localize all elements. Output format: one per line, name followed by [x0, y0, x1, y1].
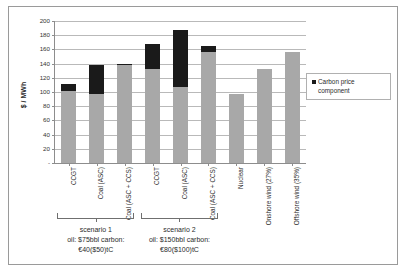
bar-3[interactable] — [117, 64, 132, 163]
x-axis-label-2: Coal (ASC) — [98, 167, 104, 199]
scenario-detail-line-1: oil: $150bbl carbon: — [141, 235, 218, 245]
y-axis-title: $ / MWh — [20, 82, 27, 108]
y-axis-tick-label: 40 — [43, 131, 50, 137]
bar-segment-base-cost — [201, 52, 216, 163]
y-axis-tick-label: 120 — [40, 75, 50, 81]
bar-2[interactable] — [89, 65, 104, 163]
y-axis-tick-label: - — [48, 160, 50, 166]
bar-segment-base-cost — [61, 91, 76, 163]
x-axis-label-1: CCGT — [71, 167, 77, 185]
x-axis-label-4: CCGT — [154, 167, 160, 185]
scenario-detail-line-2: €80($100)tC — [141, 245, 218, 255]
y-axis-tick — [52, 120, 55, 121]
bar-segment-base-cost — [89, 94, 104, 163]
y-axis-tick — [52, 64, 55, 65]
legend-swatch-carbon-price-icon — [312, 80, 316, 84]
bar-segment-carbon-price — [173, 30, 188, 87]
bar-segment-base-cost — [117, 65, 132, 163]
y-axis-tick-label: 60 — [43, 117, 50, 123]
bar-segment-base-cost — [145, 69, 160, 163]
bar-segment-carbon-price — [145, 44, 160, 70]
scenario-bracket — [141, 213, 218, 219]
bar-4[interactable] — [145, 44, 160, 163]
y-axis-tick — [52, 163, 55, 164]
scenario-detail-line-2: €40($50)tC — [57, 245, 134, 255]
bar-segment-base-cost — [257, 69, 272, 163]
chart-frame: $ / MWh 20018016014012010080604020- CCGT… — [8, 6, 398, 265]
gridline — [55, 21, 306, 22]
bar-segment-base-cost — [229, 94, 244, 163]
y-axis-tick-label: 100 — [40, 89, 50, 95]
bar-1[interactable] — [61, 84, 76, 164]
y-axis-tick — [52, 21, 55, 22]
x-axis-label-7: Nuclear — [238, 167, 244, 189]
y-axis-tick — [52, 35, 55, 36]
bar-9[interactable] — [285, 52, 300, 163]
legend-label: Carbon price component — [318, 78, 386, 95]
x-axis-label-8: Onshore wind (27%) — [266, 167, 272, 225]
scenario-caption: scenario 2 oil: $150bbl carbon: €80($100… — [141, 225, 218, 255]
bar-segment-base-cost — [285, 52, 300, 163]
bar-7[interactable] — [229, 94, 244, 163]
x-axis-label-9: Offshore wind (35%) — [294, 167, 300, 225]
y-axis-tick — [52, 135, 55, 136]
scenario-detail-line-1: oil: $75bbl carbon: — [57, 235, 134, 245]
y-axis-tick-label: 160 — [40, 46, 50, 52]
y-axis-tick-label: 200 — [40, 18, 50, 24]
y-axis-tick — [52, 78, 55, 79]
scenario-annotation-2: scenario 2 oil: $150bbl carbon: €80($100… — [141, 213, 218, 255]
bar-segment-base-cost — [173, 87, 188, 163]
scenario-name: scenario 2 — [141, 225, 218, 235]
y-axis-tick — [52, 106, 55, 107]
bar-segment-carbon-price — [89, 65, 104, 94]
y-axis-tick — [52, 92, 55, 93]
y-axis-tick-label: 20 — [43, 146, 50, 152]
x-axis-label-5: Coal (ASC) — [182, 167, 188, 199]
y-axis-tick-label: 140 — [40, 60, 50, 66]
plot-area: 20018016014012010080604020- — [54, 21, 306, 164]
scenario-caption: scenario 1 oil: $75bbl carbon: €40($50)t… — [57, 225, 134, 255]
bar-8[interactable] — [257, 69, 272, 163]
bar-5[interactable] — [173, 30, 188, 163]
scenario-bracket — [57, 213, 134, 219]
scenario-name: scenario 1 — [57, 225, 134, 235]
y-axis-tick-label: 180 — [40, 32, 50, 38]
bar-6[interactable] — [201, 46, 216, 163]
scenario-annotation-1: scenario 1 oil: $75bbl carbon: €40($50)t… — [57, 213, 134, 255]
y-axis-title-wrap: $ / MWh — [23, 65, 35, 125]
y-axis-tick-label: 80 — [43, 103, 50, 109]
legend: Carbon price component — [306, 73, 391, 100]
y-axis-tick — [52, 49, 55, 50]
y-axis-tick — [52, 149, 55, 150]
bar-segment-carbon-price — [61, 84, 76, 92]
